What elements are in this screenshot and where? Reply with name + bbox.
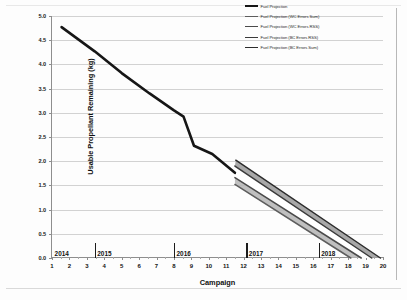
x-tick-label: 2 xyxy=(61,263,77,269)
x-tick-label: 12 xyxy=(236,263,252,269)
legend-label: Fuel Projection (WC Errors RSS) xyxy=(261,24,320,29)
legend-swatch-icon xyxy=(245,16,258,17)
legend-item[interactable]: Fuel Projection xyxy=(245,1,331,11)
chart-screenshot: 0.00.51.01.52.02.53.03.54.04.55.0 123456… xyxy=(0,0,407,300)
y-tick-label: 1.5 xyxy=(24,182,46,188)
x-tick-label: 4 xyxy=(96,263,112,269)
x-tick-label: 7 xyxy=(149,263,165,269)
x-tick-label: 16 xyxy=(305,263,321,269)
legend-item[interactable]: Fuel Projection (WC Errors Sum) xyxy=(245,11,331,21)
x-tick-label: 20 xyxy=(375,263,391,269)
x-tick-label: 15 xyxy=(288,263,304,269)
x-tick-label: 9 xyxy=(183,263,199,269)
scan-frame-bottom xyxy=(6,288,401,289)
x-tick-label: 5 xyxy=(114,263,130,269)
y-tick-label: 2.0 xyxy=(24,158,46,164)
y-tick-label: 3.0 xyxy=(24,110,46,116)
x-tick-label: 10 xyxy=(201,263,217,269)
scan-frame-top xyxy=(6,5,401,6)
series-line xyxy=(235,166,372,258)
y-axis-title: Usable Propellant Remaining (kg) xyxy=(86,37,95,197)
x-tick-label: 11 xyxy=(218,263,234,269)
y-tick-label: 0.5 xyxy=(24,231,46,237)
y-tick-label: 2.5 xyxy=(24,134,46,140)
legend-swatch-icon xyxy=(245,37,258,38)
series-line xyxy=(235,178,361,258)
legend-label: Fuel Projection xyxy=(261,4,288,9)
y-tick-label: 0.0 xyxy=(24,255,46,261)
legend-label: Fuel Projection (WC Errors Sum) xyxy=(261,14,320,19)
x-tick-mark xyxy=(383,257,384,260)
series-line xyxy=(236,160,381,258)
legend-swatch-icon xyxy=(245,47,258,48)
legend-label: Fuel Projection (BC Errors Sum) xyxy=(261,45,319,50)
y-tick-label: 5.0 xyxy=(24,13,46,19)
y-tick-label: 4.0 xyxy=(24,61,46,67)
legend-item[interactable]: Fuel Projection (BC Errors Sum) xyxy=(245,43,331,53)
legend-label: Fuel Projection (BC Errors RSS) xyxy=(261,35,319,40)
x-tick-label: 6 xyxy=(131,263,147,269)
x-tick-label: 18 xyxy=(340,263,356,269)
x-tick-label: 17 xyxy=(323,263,339,269)
x-tick-label: 13 xyxy=(253,263,269,269)
y-tick-label: 1.0 xyxy=(24,207,46,213)
legend-swatch-icon xyxy=(245,26,258,27)
y-tick-label: 3.5 xyxy=(24,86,46,92)
x-tick-label: 8 xyxy=(166,263,182,269)
chart-legend: Fuel ProjectionFuel Projection (WC Error… xyxy=(245,1,331,53)
y-tick-label: 4.5 xyxy=(24,37,46,43)
x-axis-title: Campaign xyxy=(52,278,383,287)
x-tick-label: 1 xyxy=(44,263,60,269)
plot-area: 0.00.51.01.52.02.53.03.54.04.55.0 123456… xyxy=(52,16,383,258)
legend-item[interactable]: Fuel Projection (WC Errors RSS) xyxy=(245,22,331,32)
x-tick-label: 14 xyxy=(270,263,286,269)
x-tick-label: 19 xyxy=(358,263,374,269)
series-line xyxy=(235,184,351,258)
legend-swatch-icon xyxy=(245,5,258,7)
legend-item[interactable]: Fuel Projection (BC Errors RSS) xyxy=(245,32,331,42)
scan-frame-right xyxy=(396,8,397,280)
x-tick-label: 3 xyxy=(79,263,95,269)
series-lines xyxy=(52,16,383,258)
